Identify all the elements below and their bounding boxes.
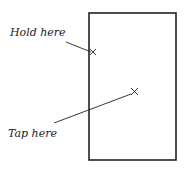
tap-label: Tap here [8, 127, 57, 140]
hold-leader-line [66, 42, 91, 52]
tap-leader-line [54, 94, 131, 123]
hold-label: Hold here [10, 26, 66, 39]
card-outline [89, 13, 176, 160]
tap-x-mark [131, 88, 138, 95]
